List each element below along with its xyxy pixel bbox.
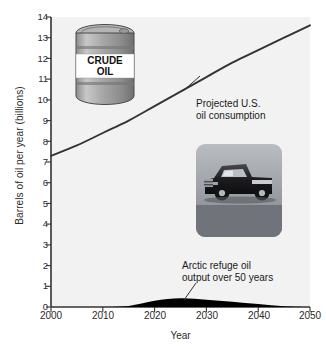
barrel-label-line1: CRUDE: [87, 55, 123, 66]
pickup-truck-photo: [196, 144, 282, 237]
crude-oil-barrel-illustration: CRUDE OIL: [76, 25, 134, 105]
annotation-arctic-refuge: Arctic refuge oil output over 50 years: [182, 260, 273, 284]
barrel-label-line2: OIL: [97, 66, 114, 77]
annotation-projected-consumption: Projected U.S. oil consumption: [196, 98, 265, 122]
oil-consumption-chart: Barrels of oil per year (billions) 14 13…: [0, 0, 326, 349]
plot-area: CRUDE OIL: [0, 0, 326, 349]
